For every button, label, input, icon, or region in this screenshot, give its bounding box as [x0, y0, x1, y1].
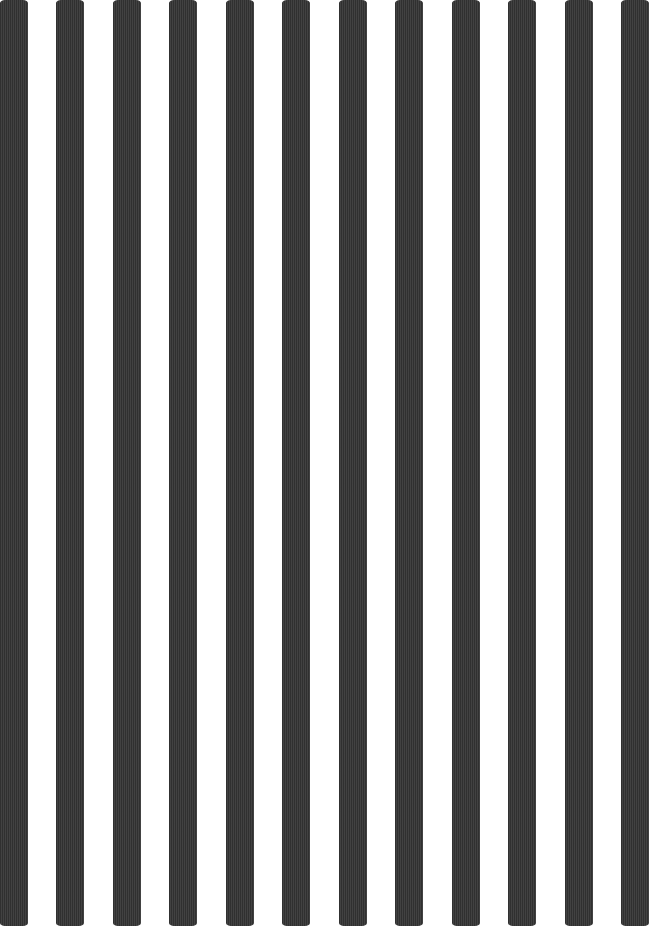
- stripe: [339, 0, 367, 926]
- stripe: [621, 0, 649, 926]
- stripe: [169, 0, 197, 926]
- striped-pattern-canvas: [0, 0, 672, 926]
- stripe: [0, 0, 28, 926]
- stripe: [565, 0, 593, 926]
- stripe: [226, 0, 254, 926]
- stripe: [452, 0, 480, 926]
- stripe: [282, 0, 310, 926]
- stripe: [113, 0, 141, 926]
- stripe: [395, 0, 423, 926]
- stripe: [56, 0, 84, 926]
- stripe: [508, 0, 536, 926]
